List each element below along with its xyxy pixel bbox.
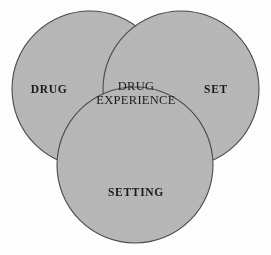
- label-drug-experience-line1: DRUG: [88, 80, 184, 94]
- venn-diagram: DRUG SET SETTING DRUG EXPERIENCE: [0, 0, 271, 255]
- venn-diagram-canvas: [0, 0, 271, 255]
- label-setting: SETTING: [98, 186, 174, 198]
- label-drug: DRUG: [16, 83, 82, 95]
- circle-setting: [57, 87, 213, 243]
- label-drug-experience: DRUG EXPERIENCE: [88, 80, 184, 107]
- label-drug-experience-line2: EXPERIENCE: [88, 94, 184, 108]
- label-set: SET: [186, 83, 246, 95]
